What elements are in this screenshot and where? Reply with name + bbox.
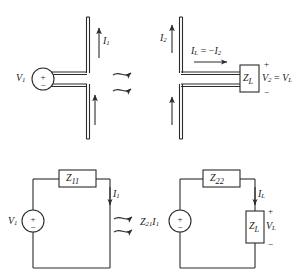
tl-upper-arm <box>87 17 90 73</box>
bottom-radiation-waves <box>114 217 132 232</box>
antenna-coupling-figure: V1 + − I1 I2 IL = −I2 ZL + V2 = VL − V1 … <box>0 0 296 279</box>
figure-vector-layer <box>0 0 296 279</box>
tr-feed-line <box>181 72 240 87</box>
bl-current-label: I1 <box>113 189 120 200</box>
tl-source-minus: − <box>41 81 46 90</box>
tl-lower-arm <box>87 84 90 139</box>
top-radiation-waves <box>113 73 131 91</box>
br-source-label: Z21I1 <box>140 217 159 228</box>
tr-load-label: ZL <box>243 73 253 86</box>
tr-voltage-equation: V2 = VL <box>262 73 292 84</box>
br-load-label: ZL <box>249 221 259 234</box>
tr-current-label: I2 <box>160 33 167 44</box>
br-voltage-label: VL <box>266 221 276 232</box>
br-source-minus: − <box>178 223 183 232</box>
br-current-label: IL <box>258 189 265 200</box>
br-voltage-minus: − <box>268 240 273 249</box>
tr-load-current-equation: IL = −I2 <box>191 46 221 57</box>
tl-current-label: I1 <box>103 36 110 47</box>
bl-source-label: V1 <box>8 216 18 227</box>
bl-source-minus: − <box>31 223 36 232</box>
tr-lower-arm <box>180 84 183 139</box>
br-voltage-plus: + <box>268 207 273 216</box>
tr-voltage-minus: − <box>264 88 269 97</box>
br-impedance-label: Z22 <box>210 173 224 186</box>
tr-upper-arm <box>180 17 183 73</box>
tl-source-label: V1 <box>16 73 26 84</box>
bl-impedance-label: Z11 <box>66 173 79 186</box>
tr-voltage-plus: + <box>264 60 269 69</box>
